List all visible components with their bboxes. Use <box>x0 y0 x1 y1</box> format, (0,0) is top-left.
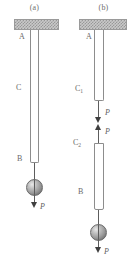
fixed-support-hatching-a <box>14 19 59 30</box>
rod-c2-tube-b <box>94 143 104 210</box>
rod-c1-tube-b <box>94 30 104 101</box>
panel-a-caption: (a) <box>0 3 69 12</box>
label-b-rod-C2-sub: 2 <box>78 142 81 148</box>
label-b-point-A: A <box>86 33 92 41</box>
figure-panel-b: (b) A C1 P P C2 B P <box>69 0 138 270</box>
rod-c-tube-a <box>30 30 39 163</box>
label-a-rod-C: C <box>16 84 21 92</box>
load-arrow-head-b <box>95 247 101 253</box>
wire-to-weight-b <box>98 210 99 225</box>
load-arrow-head-a <box>31 202 37 208</box>
label-a-load-P: P <box>40 203 45 211</box>
label-b-rod-C1-sub: 1 <box>80 88 83 94</box>
label-a-point-B: B <box>17 155 22 163</box>
label-b-point-B: B <box>78 188 83 196</box>
load-arrow-shaft-b <box>98 225 99 249</box>
fixed-support-hatching-b <box>79 19 127 30</box>
label-b-rod-C1: C1 <box>75 85 83 93</box>
label-a-point-A: A <box>19 33 25 41</box>
load-arrow-shaft-a <box>34 180 35 204</box>
panel-b-caption: (b) <box>69 3 138 12</box>
label-b-load-P: P <box>104 248 109 256</box>
label-b-rod-C2: C2 <box>73 139 81 147</box>
label-b-internal-force-down-P: P <box>105 109 110 117</box>
internal-force-down-head-b <box>95 117 101 123</box>
figure-panel-a: (a) A C B P <box>0 0 69 270</box>
internal-force-up-shaft-b <box>98 130 99 143</box>
wire-to-weight-a <box>34 163 35 180</box>
label-b-internal-force-up-P: P <box>105 128 110 136</box>
